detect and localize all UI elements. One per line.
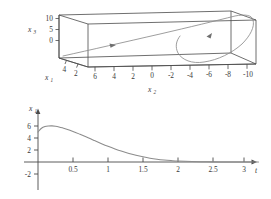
axis-x2-ticklabel-8: -10 xyxy=(243,70,253,79)
arrowhead-lower-branch xyxy=(207,33,213,38)
axis-y-ticklabel-2: 2 xyxy=(27,146,31,155)
axis-x1-tick-4 xyxy=(65,60,67,64)
axis-y-label: x 1 xyxy=(28,104,38,114)
axis-y-label-sub: 1 xyxy=(35,108,38,114)
axis-x2-ticklabel-5: -4 xyxy=(187,71,193,80)
svg-2d-plot: 6 4 2 -2 x 1 0.5 1 1.5 2 2.5 xyxy=(0,100,271,199)
axis-x3-ticklabel-1: 5 xyxy=(49,25,53,34)
axis-x-ticklabel-1: 1 xyxy=(106,165,110,174)
axis-x1-tick-2 xyxy=(77,64,78,68)
axis-y-label-text: x xyxy=(28,104,33,113)
axis-x3-ticklabel-2: 0 xyxy=(49,36,53,45)
axis-x2-ticklabel-6: -6 xyxy=(206,70,212,79)
axis-y-ticklabel-3: -2 xyxy=(25,170,31,179)
axis-x2-label-text: x xyxy=(147,85,152,94)
axis-x2-line xyxy=(88,64,256,67)
axis-x3-label-sub: 3 xyxy=(34,29,37,35)
axis-x2-ticklabel-3: 0 xyxy=(150,71,154,80)
axis-x1-label-text: x xyxy=(44,73,49,82)
axis-y-ticklabel-1: 4 xyxy=(27,134,31,143)
axis-x1-ticklabel-0: 4 xyxy=(63,65,67,74)
axis-x3-label: x 3 xyxy=(27,25,37,35)
axis-x1-label-sub: 1 xyxy=(51,77,54,83)
axis-x-ticklabel-3: 2 xyxy=(176,165,180,174)
series-x1-curve xyxy=(38,126,259,162)
axis-x-ticklabel-4: 2.5 xyxy=(208,165,218,174)
axis-x1-ticklabel-1: 2 xyxy=(74,69,78,78)
axis-x-label: t xyxy=(255,166,258,175)
axis-x-ticklabel-5: 3 xyxy=(242,165,246,174)
axis-x3 xyxy=(56,15,60,58)
axis-y-ticklabel-0: 6 xyxy=(27,122,31,131)
axis-x2-label: x 2 xyxy=(147,85,157,95)
axis-x1-label: x 1 xyxy=(44,73,54,83)
axis-x2-ticklabel-2: 2 xyxy=(131,72,135,81)
axis-x-ticklabel-2: 1.5 xyxy=(138,165,148,174)
axis-x2-ticklabel-7: -8 xyxy=(225,70,231,79)
panel-2d-time-series: 6 4 2 -2 x 1 0.5 1 1.5 2 2.5 xyxy=(0,100,271,199)
box-edge-depth-top-left xyxy=(59,15,88,24)
axis-x2-ticklabel-0: 6 xyxy=(93,72,97,81)
svg-3d-plot: 10 5 0 x 3 4 2 x 1 xyxy=(0,0,271,100)
axis-x-ticklabel-0: 0.5 xyxy=(68,165,78,174)
axis-x2-ticklabel-4: -2 xyxy=(168,71,174,80)
trajectory-arrowheads xyxy=(110,33,213,48)
box-edge-back-bottom xyxy=(59,53,231,58)
axis-x2-ticklabel-1: 4 xyxy=(112,72,116,81)
axis-x xyxy=(24,158,252,163)
axis-y xyxy=(34,112,38,190)
box-edge-back-top xyxy=(59,11,231,15)
box-edge-depth-bottom-right xyxy=(231,53,256,64)
axis-x2-label-sub: 2 xyxy=(154,89,157,95)
axis-x3-ticklabel-0: 10 xyxy=(46,14,54,23)
axis-x3-label-text: x xyxy=(27,25,32,34)
panel-3d-phase-plot: 10 5 0 x 3 4 2 x 1 xyxy=(0,0,271,100)
figure-container: 10 5 0 x 3 4 2 x 1 xyxy=(0,0,271,199)
